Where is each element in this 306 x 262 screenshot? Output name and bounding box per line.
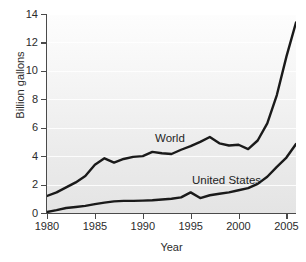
y-axis-tick	[41, 42, 46, 43]
chart-figure: 02468101214 198019851990199520002005 Bil…	[0, 0, 306, 262]
x-axis-tick	[143, 214, 144, 219]
x-axis-tick	[47, 214, 48, 219]
x-axis-tick-label: 2000	[219, 221, 259, 232]
y-axis-tick	[41, 156, 46, 157]
series-label-world: World	[155, 132, 185, 144]
y-axis-tick-label: 0	[14, 208, 38, 219]
y-axis-tick-label: 4	[14, 151, 38, 162]
x-axis-tick-label: 2005	[266, 221, 306, 232]
x-axis-tick	[239, 214, 240, 219]
x-axis-tick	[191, 214, 192, 219]
y-axis-tick	[41, 99, 46, 100]
series-label-united-states: United States	[192, 174, 261, 186]
x-axis-tick-label: 1990	[123, 221, 163, 232]
y-axis-tick	[41, 185, 46, 186]
y-axis-title: Billion gallons	[14, 20, 26, 150]
y-axis-line	[46, 14, 47, 214]
x-axis-tick-label: 1980	[27, 221, 67, 232]
y-axis-tick	[41, 14, 46, 15]
x-axis-tick	[286, 214, 287, 219]
x-axis-tick	[95, 214, 96, 219]
y-axis-tick-label: 2	[14, 179, 38, 190]
series-line-world	[47, 23, 296, 196]
y-axis-tick	[41, 128, 46, 129]
y-axis-tick	[41, 213, 46, 214]
x-axis-line	[47, 213, 296, 214]
y-axis-tick-label: 14	[14, 9, 38, 20]
y-axis-tick	[41, 71, 46, 72]
x-axis-title: Year	[47, 241, 296, 253]
x-axis-tick-label: 1985	[75, 221, 115, 232]
x-axis-tick-label: 1995	[171, 221, 211, 232]
